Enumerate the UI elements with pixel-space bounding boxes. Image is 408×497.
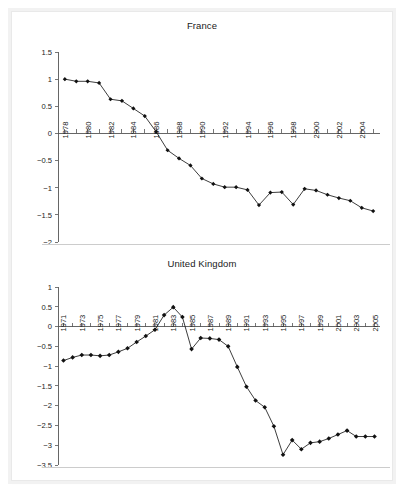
series-data-point bbox=[360, 206, 364, 210]
series-data-point bbox=[348, 199, 352, 203]
line-chart-united-kingdom: 10.50−0.5−1−1.5−2−2.5−3−3.51971197319751… bbox=[12, 252, 392, 480]
x-tick-label: 2004 bbox=[358, 122, 367, 139]
x-tick-label: 1975 bbox=[96, 315, 105, 332]
x-tick-label: 1996 bbox=[266, 122, 275, 139]
chart-panel-france: France 1.510.50−0.5−1−1.5−21978198019821… bbox=[12, 14, 392, 252]
x-tick-label: 1989 bbox=[224, 315, 233, 332]
y-tick-label: 0 bbox=[48, 129, 52, 138]
x-tick-label: 1983 bbox=[169, 315, 178, 332]
x-tick-label: 2001 bbox=[334, 315, 343, 332]
series-data-point bbox=[223, 185, 227, 189]
x-tick-label: 2002 bbox=[335, 122, 344, 139]
series-data-point bbox=[61, 358, 66, 363]
y-tick-label: −1 bbox=[43, 362, 52, 371]
y-tick-label: −1 bbox=[43, 184, 52, 193]
series-data-point bbox=[337, 196, 341, 200]
series-data-point bbox=[98, 354, 103, 359]
series-data-point bbox=[234, 185, 238, 189]
series-data-point bbox=[363, 434, 368, 439]
series-data-point bbox=[74, 79, 78, 83]
series-data-point bbox=[86, 79, 90, 83]
y-tick-label: 1 bbox=[48, 75, 52, 84]
y-tick-label: −2 bbox=[43, 401, 52, 410]
series-data-point bbox=[107, 353, 112, 358]
x-tick-label: 1995 bbox=[279, 315, 288, 332]
y-tick-label: −3 bbox=[43, 441, 52, 450]
y-tick-label: −0.5 bbox=[37, 156, 52, 165]
series-data-point bbox=[354, 434, 359, 439]
y-tick-label: 1.5 bbox=[41, 48, 52, 57]
series-data-point bbox=[79, 353, 84, 358]
series-data-point bbox=[116, 350, 121, 355]
x-tick-label: 1977 bbox=[114, 315, 123, 332]
chart-panel-united-kingdom: United Kingdom 10.50−0.5−1−1.5−2−2.5−3−3… bbox=[12, 252, 392, 480]
series-data-point bbox=[70, 355, 75, 360]
x-tick-label: 1971 bbox=[59, 315, 68, 332]
x-tick-label: 2000 bbox=[312, 122, 321, 139]
x-tick-label: 1982 bbox=[107, 122, 116, 139]
x-tick-label: 1997 bbox=[297, 315, 306, 332]
x-tick-label: 1985 bbox=[188, 315, 197, 332]
y-tick-label: 0.5 bbox=[41, 303, 52, 312]
y-tick-label: −0.5 bbox=[37, 342, 52, 351]
series-data-point bbox=[314, 188, 318, 192]
x-tick-label: 1979 bbox=[133, 315, 142, 332]
y-tick-label: −1.5 bbox=[37, 382, 52, 391]
x-tick-label: 1991 bbox=[242, 315, 251, 332]
x-tick-label: 1994 bbox=[244, 122, 253, 139]
x-tick-label: 1980 bbox=[84, 122, 93, 139]
series-data-point bbox=[336, 432, 341, 437]
x-tick-label: 1987 bbox=[206, 315, 215, 332]
series-data-point bbox=[325, 193, 329, 197]
x-tick-label: 1999 bbox=[316, 315, 325, 332]
line-chart-france: 1.510.50−0.5−1−1.5−219781980198219841986… bbox=[12, 14, 392, 252]
y-tick-label: −1.5 bbox=[37, 211, 52, 220]
x-tick-label: 1990 bbox=[198, 122, 207, 139]
y-tick-label: −3.5 bbox=[37, 461, 52, 470]
x-tick-label: 1984 bbox=[129, 122, 138, 139]
y-tick-label: −2 bbox=[43, 238, 52, 247]
series-data-point bbox=[208, 336, 213, 341]
x-tick-label: 1993 bbox=[261, 315, 270, 332]
y-tick-label: 0.5 bbox=[41, 102, 52, 111]
series-data-point bbox=[371, 209, 375, 213]
figure-frame: France 1.510.50−0.5−1−1.5−21978198019821… bbox=[11, 11, 393, 481]
series-data-point bbox=[244, 384, 249, 389]
series-line-path bbox=[63, 307, 374, 455]
x-tick-label: 1992 bbox=[221, 122, 230, 139]
series-data-point bbox=[211, 182, 215, 186]
x-tick-label: 2003 bbox=[352, 315, 361, 332]
y-tick-label: −2.5 bbox=[37, 421, 52, 430]
x-tick-label: 1978 bbox=[61, 122, 70, 139]
series-data-point bbox=[281, 452, 286, 457]
y-tick-label: 1 bbox=[48, 283, 52, 292]
series-data-point bbox=[317, 439, 322, 444]
series-data-point bbox=[326, 436, 331, 441]
series-data-point bbox=[235, 365, 240, 370]
x-tick-label: 1973 bbox=[78, 315, 87, 332]
series-data-point bbox=[89, 353, 94, 358]
x-tick-label: 1986 bbox=[152, 122, 161, 139]
y-tick-label: 0 bbox=[48, 322, 52, 331]
x-tick-label: 1988 bbox=[175, 122, 184, 139]
series-data-point bbox=[272, 424, 277, 429]
series-data-point bbox=[345, 428, 350, 433]
series-data-point bbox=[372, 434, 377, 439]
x-tick-label: 2005 bbox=[371, 315, 380, 332]
x-tick-label: 1998 bbox=[289, 122, 298, 139]
series-data-point bbox=[63, 77, 67, 81]
